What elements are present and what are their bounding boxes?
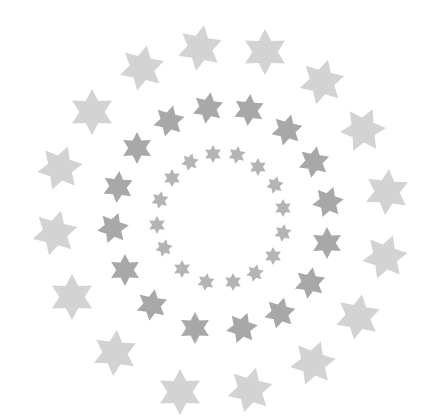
- background: [0, 0, 438, 420]
- star-rings-illustration: [0, 0, 438, 420]
